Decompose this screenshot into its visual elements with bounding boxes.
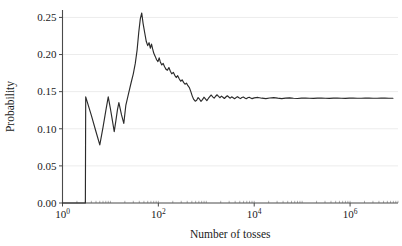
x-axis-title: Number of tosses [190,228,271,240]
line-chart: 0.000.050.100.150.200.25 100102104106 Nu… [0,0,402,246]
x-tick-label: 104 [247,207,262,220]
major-tick-marks [59,17,350,206]
gridlines [63,17,399,165]
x-tick-label: 100 [55,207,70,220]
axis-spines [63,10,399,203]
y-tick-labels: 0.000.050.100.150.200.25 [37,11,57,209]
x-tick-labels: 100102104106 [55,207,358,220]
x-tick-label: 102 [151,207,166,220]
y-tick-label: 0.10 [37,123,57,135]
y-tick-label: 0.05 [37,160,57,172]
y-tick-label: 0.20 [37,48,57,60]
probability-series-line [63,13,393,203]
y-axis-title: Probability [4,81,17,132]
y-tick-label: 0.15 [37,85,57,97]
x-tick-label: 106 [343,207,358,220]
y-tick-label: 0.25 [37,11,57,23]
y-tick-label: 0.00 [37,197,57,209]
chart-figure: 0.000.050.100.150.200.25 100102104106 Nu… [0,0,402,246]
